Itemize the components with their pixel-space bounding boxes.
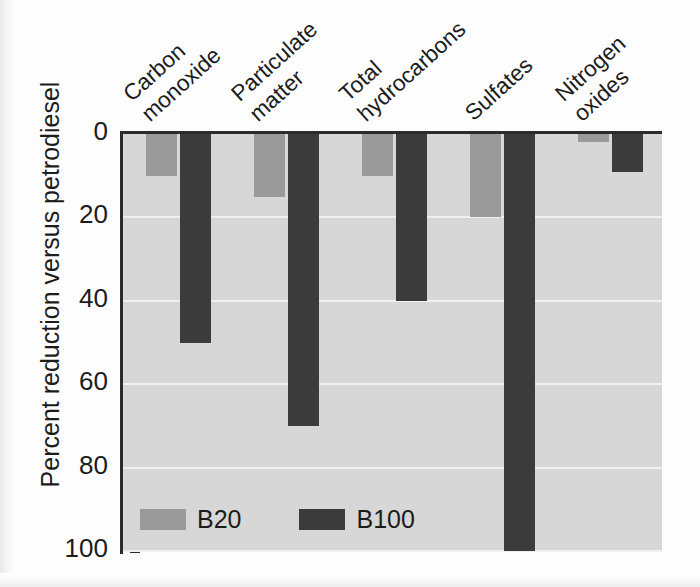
bar-b100-nitrogen-oxides bbox=[612, 134, 643, 172]
y-tick-label-100: 100 bbox=[65, 533, 108, 564]
category-label-particulate-matter: Particulatematter bbox=[226, 17, 341, 128]
gridline-100 bbox=[122, 550, 662, 552]
scan-edge-left bbox=[0, 0, 14, 587]
legend-swatch-b100-icon bbox=[299, 509, 345, 530]
bar-b20-total-hydrocarbons bbox=[362, 134, 393, 176]
y-tick-label-0: 0 bbox=[94, 116, 108, 147]
y-tick-label-40: 40 bbox=[79, 283, 108, 314]
y-axis-line bbox=[120, 131, 123, 554]
bar-b20-particulate-matter bbox=[254, 134, 285, 197]
legend-label-b100: B100 bbox=[356, 505, 414, 534]
bar-chart-figure: Percent reduction versus petrodiesel 020… bbox=[0, 0, 700, 587]
category-label-line-1: Sulfates bbox=[460, 52, 537, 125]
chart-legend: B20 B100 bbox=[140, 505, 415, 534]
legend-label-b20: B20 bbox=[197, 505, 241, 534]
category-label-sulfates: Sulfates bbox=[460, 52, 538, 126]
gridline-60 bbox=[122, 383, 662, 385]
y-axis-tick-labels: 020406080100 bbox=[20, 0, 108, 587]
bar-b20-sulfates bbox=[470, 134, 501, 217]
x-axis-line bbox=[122, 131, 662, 134]
bar-b100-sulfates bbox=[504, 134, 535, 551]
legend-item-b20: B20 bbox=[140, 505, 241, 534]
category-label-total-hydrocarbons: Totalhydrocarbons bbox=[334, 0, 471, 127]
y-tick-label-20: 20 bbox=[79, 199, 108, 230]
legend-item-b100: B100 bbox=[299, 505, 414, 534]
legend-swatch-b20-icon bbox=[140, 509, 186, 530]
category-label-carbon-monoxide: Carbonmonoxide bbox=[118, 22, 226, 127]
plot-area bbox=[122, 134, 662, 551]
y-tick-label-60: 60 bbox=[79, 366, 108, 397]
y-tick-label-80: 80 bbox=[79, 450, 108, 481]
bar-b100-particulate-matter bbox=[288, 134, 319, 426]
bar-b20-carbon-monoxide bbox=[146, 134, 177, 176]
gridline-80 bbox=[122, 467, 662, 469]
category-label-nitrogen-oxides: Nitrogenoxides bbox=[550, 31, 649, 127]
bar-b100-carbon-monoxide bbox=[180, 134, 211, 343]
bar-b100-total-hydrocarbons bbox=[396, 134, 427, 301]
bar-b20-nitrogen-oxides bbox=[578, 134, 609, 142]
